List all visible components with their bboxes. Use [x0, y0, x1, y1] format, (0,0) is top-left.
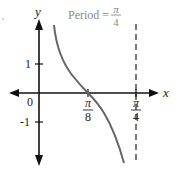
- x-axis-arrow-right: [149, 89, 159, 97]
- chart-title-den: 4: [113, 16, 119, 28]
- y-axis-label: y: [33, 4, 41, 19]
- y-tick-label-1: 1: [25, 57, 31, 71]
- x-tick-label-pi8-den: 8: [85, 110, 91, 124]
- cotangent-curve: [54, 25, 124, 163]
- x-tick-label-pi4-num: π: [133, 96, 140, 110]
- origin-label: 0: [27, 95, 33, 109]
- y-tick-label-neg1: -1: [20, 115, 30, 129]
- x-tick-label-pi4-den: 4: [133, 110, 139, 124]
- x-tick-label-pi8-num: π: [85, 96, 92, 110]
- y-axis-arrow-up: [35, 19, 43, 30]
- x-axis-label: x: [162, 85, 169, 100]
- y-axis-arrow-down: [35, 155, 43, 166]
- x-axis-arrow-left: [9, 89, 19, 97]
- chart-title-num: π: [113, 3, 119, 15]
- chart-title-prefix: Period =: [68, 8, 109, 22]
- stray-mark: [2, 18, 4, 20]
- cotangent-graph: y x 0 1 -1 π 8 π 4 Period = π 4: [0, 0, 180, 176]
